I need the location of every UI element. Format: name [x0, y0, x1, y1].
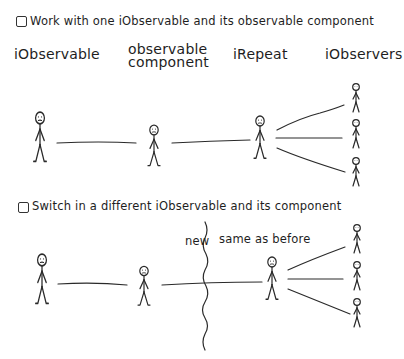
- figure-component-2: [138, 266, 150, 305]
- figure-irepeat-1: [254, 116, 266, 158]
- link-observable-component-1: [57, 142, 136, 143]
- link-repeat-observer-2a: [288, 247, 345, 270]
- figure-iobservable-1: [34, 112, 47, 161]
- figure-observer-1a: [353, 84, 360, 112]
- figure-observer-2b: [354, 262, 361, 290]
- link-repeat-observer-2c: [288, 289, 350, 314]
- link-component-repeat-2: [162, 282, 262, 285]
- figure-observer-1c: [353, 158, 360, 186]
- figure-component-1: [148, 125, 160, 165]
- link-repeat-observer-1a: [277, 105, 344, 130]
- wavy-divider: [203, 222, 208, 350]
- link-component-repeat-1: [172, 140, 250, 143]
- link-repeat-observer-1c: [277, 148, 345, 172]
- figure-iobservable-2: [36, 254, 49, 303]
- figure-observer-2c: [354, 299, 361, 327]
- diagram-canvas: [0, 0, 404, 359]
- link-observable-component-2: [58, 283, 127, 285]
- figure-irepeat-2: [266, 257, 278, 299]
- figure-observer-1b: [353, 120, 360, 148]
- figure-observer-2a: [354, 225, 361, 253]
